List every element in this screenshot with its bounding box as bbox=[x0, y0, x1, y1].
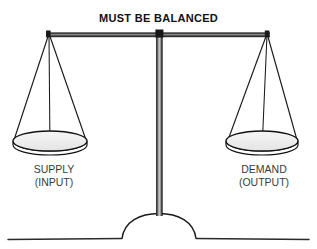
scale-post bbox=[157, 36, 163, 216]
right-pan-label-line1: DEMAND bbox=[212, 163, 316, 176]
diagram-title: MUST BE BALANCED bbox=[0, 12, 317, 24]
left-pan-label-line1: SUPPLY bbox=[2, 163, 106, 176]
beam-pivot bbox=[155, 30, 163, 38]
beam-right-knob bbox=[265, 31, 270, 38]
left-pan bbox=[13, 131, 87, 155]
right-pan bbox=[226, 131, 298, 155]
balance-scale-illustration bbox=[0, 0, 317, 249]
right-pan-label: DEMAND (OUTPUT) bbox=[212, 163, 316, 188]
left-pan-label-line2: (INPUT) bbox=[2, 176, 106, 189]
scale-base bbox=[122, 214, 196, 239]
diagram-canvas: MUST BE BALANCED SUPPLY (INPUT) DEMAND (… bbox=[0, 0, 317, 249]
right-pan-label-line2: (OUTPUT) bbox=[212, 176, 316, 189]
ground-line bbox=[8, 239, 309, 240]
left-pan-label: SUPPLY (INPUT) bbox=[2, 163, 106, 188]
beam-left-knob bbox=[46, 31, 51, 38]
